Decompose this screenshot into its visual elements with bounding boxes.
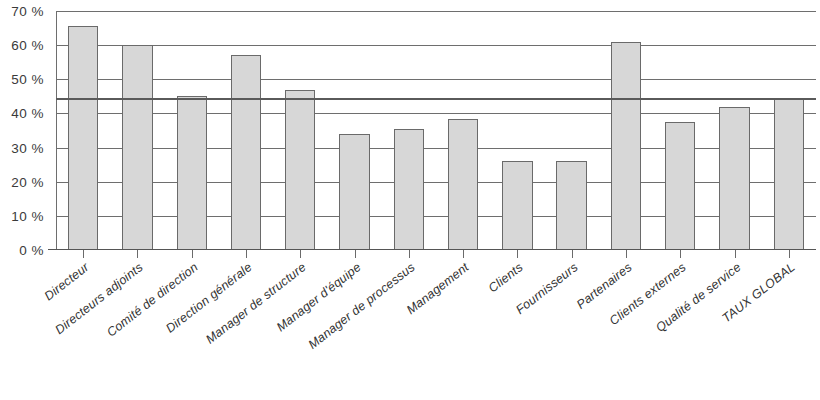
bar-slot [110,11,164,250]
bar[interactable] [231,55,261,250]
bar-slot [382,11,436,250]
x-axis-tick-mark [626,250,627,258]
x-axis-tick-mark [192,250,193,258]
y-axis-tick-label: 70 % [0,4,44,19]
x-axis-tick-mark [83,250,84,258]
bar-slot [599,11,653,250]
bar-slot [165,11,219,250]
bar[interactable] [502,161,532,250]
bar-slot [56,11,110,250]
bar[interactable] [68,26,98,250]
bar[interactable] [394,129,424,250]
x-axis-label-slot: TAUX GLOBAL [762,258,816,398]
x-axis-labels: DirecteurDirecteurs adjointsComité de di… [56,258,816,398]
bar-slot [436,11,490,250]
y-axis-tick-label: 60 % [0,38,44,53]
x-axis-line [48,249,816,250]
bar-slot [545,11,599,250]
bar-slot [653,11,707,250]
bar[interactable] [611,42,641,250]
bar-slot [327,11,381,250]
x-axis-tick-mark [300,250,301,258]
bar-slot [707,11,761,250]
y-axis-tick-label: 30 % [0,140,44,155]
x-axis-tick-mark [680,250,681,258]
y-axis-tick-label: 20 % [0,174,44,189]
bar-slot [490,11,544,250]
y-axis-tick-label: 40 % [0,106,44,121]
x-axis-label-slot: Qualité de service [707,258,761,398]
bar[interactable] [177,96,207,250]
x-axis-tick-mark [789,250,790,258]
bar[interactable] [285,90,315,250]
bar[interactable] [122,45,152,250]
x-axis-label-slot: Fournisseurs [545,258,599,398]
x-axis-tick-mark [137,250,138,258]
x-axis-category-label: Clients [486,260,526,295]
bars-layer [56,11,816,250]
x-axis-tick-mark [409,250,410,258]
x-axis-tick-mark [463,250,464,258]
bar-chart: 70 %60 %50 %40 %30 %20 %10 %0 % Directeu… [0,0,820,400]
plot-area [56,11,816,250]
bar[interactable] [719,107,749,250]
bar-slot [762,11,816,250]
x-axis-label-slot: Manager de processus [382,258,436,398]
x-axis-label-slot: Partenaires [599,258,653,398]
bar[interactable] [774,98,804,250]
y-axis-tick-label: 10 % [0,208,44,223]
x-axis-tick-mark [517,250,518,258]
x-axis-category-label: Directeur [42,260,92,303]
x-axis-tick-mark [735,250,736,258]
bar[interactable] [448,119,478,250]
y-axis-tick-label: 50 % [0,72,44,87]
x-axis-tick-mark [355,250,356,258]
x-axis-tick-mark [572,250,573,258]
bar[interactable] [665,122,695,250]
bar[interactable] [339,134,369,250]
bar-slot [219,11,273,250]
x-axis-label-slot: Management [436,258,490,398]
y-axis: 70 %60 %50 %40 %30 %20 %10 %0 % [0,0,44,400]
y-axis-tick-label: 0 % [0,243,44,258]
reference-line [56,98,816,100]
bar-slot [273,11,327,250]
x-axis-label-slot: Clients [490,258,544,398]
bar[interactable] [556,161,586,250]
x-axis-tick-mark [246,250,247,258]
